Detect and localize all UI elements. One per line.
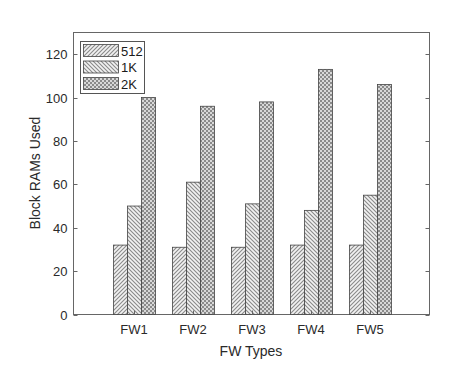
- x-tick-label: FW2: [179, 322, 206, 337]
- bar-1K-FW2: [187, 182, 201, 314]
- bar-512-FW2: [173, 247, 187, 314]
- legend-swatch-1K: [84, 61, 119, 73]
- x-tick-label: FW4: [297, 322, 324, 337]
- legend-swatch-2K: [84, 78, 119, 90]
- bar-2K-FW1: [142, 98, 156, 315]
- y-tick-label: 40: [53, 221, 67, 236]
- y-tick-label: 60: [53, 177, 67, 192]
- y-tick-label: 0: [60, 308, 67, 323]
- bar-1K-FW4: [305, 210, 319, 314]
- bar-chart: 020406080100120 FW1FW2FW3FW4FW5 FW Types…: [0, 0, 451, 380]
- bar-1K-FW5: [364, 195, 378, 314]
- x-tick-label: FW5: [356, 322, 383, 337]
- legend-swatch-512: [84, 45, 119, 57]
- bar-1K-FW1: [128, 206, 142, 314]
- bar-512-FW5: [350, 245, 364, 314]
- bar-512-FW1: [114, 245, 128, 314]
- legend-label: 2K: [121, 77, 137, 92]
- x-tick-label: FW1: [120, 322, 147, 337]
- y-tick-label: 20: [53, 264, 67, 279]
- bar-2K-FW3: [260, 102, 274, 315]
- x-axis-title: FW Types: [220, 343, 283, 359]
- y-tick-label: 100: [46, 91, 68, 106]
- y-tick-label: 120: [46, 47, 68, 62]
- y-tick-label: 80: [53, 134, 67, 149]
- bar-512-FW3: [232, 247, 246, 314]
- x-tick-label: FW3: [238, 322, 265, 337]
- bar-1K-FW3: [246, 204, 260, 315]
- y-axis-title: Block RAMs Used: [27, 117, 43, 230]
- bar-2K-FW2: [201, 106, 215, 314]
- legend-label: 1K: [121, 60, 137, 75]
- legend: 5121K2K: [81, 42, 145, 94]
- legend-label: 512: [121, 44, 143, 59]
- bar-2K-FW4: [319, 69, 333, 314]
- bar-2K-FW5: [378, 85, 392, 315]
- bar-512-FW4: [291, 245, 305, 314]
